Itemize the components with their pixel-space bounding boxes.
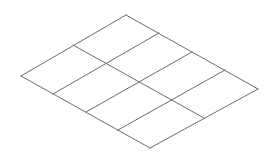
- grid-drawing: [0, 0, 276, 160]
- grid-line-col-divider-1: [53, 33, 159, 94]
- isometric-grid-diagram: [0, 0, 276, 160]
